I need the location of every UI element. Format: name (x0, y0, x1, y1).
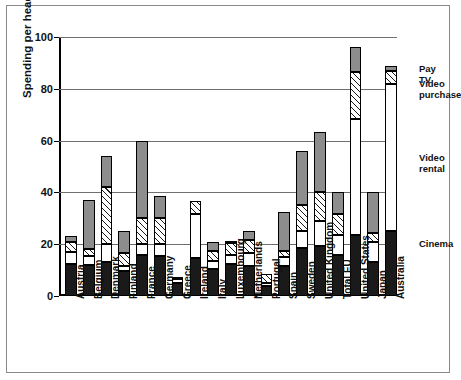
y-tick-mark-100 (54, 37, 59, 38)
segment-video-rental (350, 119, 362, 236)
x-label-australia: Australia (395, 256, 406, 299)
x-label-greece: Greece (182, 265, 193, 299)
segment-pay-tv (136, 141, 148, 219)
segment-pay-tv (118, 231, 130, 253)
x-label-germany: Germany (164, 256, 175, 299)
segment-video-purchase (83, 249, 95, 255)
x-label-netherlands: Netherlands (253, 241, 264, 299)
segment-video-rental (385, 84, 397, 232)
segment-pay-tv (350, 47, 362, 72)
y-tick-mark-40 (54, 192, 59, 193)
legend-label-cinema: Cinema (419, 238, 453, 249)
chart-frame: Spending per head ($) 020406080100 Austr… (6, 5, 450, 373)
segment-pay-tv (367, 192, 379, 232)
legend-video-rental-line1: Video (419, 152, 445, 163)
segment-video-rental (296, 231, 308, 248)
legend-video-purchase-line2: purchase (419, 89, 461, 100)
segment-video-purchase (101, 187, 113, 244)
segment-video-rental (154, 244, 166, 256)
x-label-portugal: Portugal (271, 258, 282, 299)
segment-video-purchase (207, 251, 219, 261)
y-tick-label-0: 0 (47, 290, 53, 302)
x-label-france: France (146, 266, 157, 299)
segment-pay-tv (385, 66, 397, 71)
segment-video-rental (190, 214, 202, 258)
y-axis-label: Spending per head ($) (21, 0, 33, 98)
y-tick-label-40: 40 (41, 186, 53, 198)
segment-video-purchase (190, 201, 202, 214)
segment-video-purchase (314, 192, 326, 220)
segment-video-rental (65, 252, 77, 264)
segment-video-purchase (65, 242, 77, 252)
x-label-sweden: Sweden (306, 261, 317, 299)
segment-pay-tv (83, 200, 95, 249)
segment-pay-tv (332, 192, 344, 214)
x-label-total-eu: Total EU (342, 259, 353, 299)
segment-video-purchase (154, 218, 166, 244)
segment-pay-tv (207, 242, 219, 251)
segment-pay-tv (278, 212, 290, 251)
gridline-80 (59, 89, 397, 90)
y-tick-label-100: 100 (35, 31, 53, 43)
y-tick-label-20: 20 (41, 238, 53, 250)
segment-video-purchase (385, 71, 397, 84)
y-tick-mark-80 (54, 89, 59, 90)
x-label-united-states: United States (360, 235, 371, 299)
segment-video-purchase (278, 251, 290, 257)
x-label-italy: Italy (217, 279, 228, 299)
x-label-finland: Finland (128, 263, 139, 299)
x-label-denmark: Denmark (110, 256, 121, 299)
x-label-ireland: Ireland (199, 266, 210, 299)
y-axis-line (59, 37, 61, 296)
gridline-100 (59, 37, 397, 38)
x-label-united-kingdom: United Kingdom (324, 222, 335, 299)
y-tick-mark-60 (54, 141, 59, 142)
segment-video-purchase (350, 72, 362, 119)
legend-video-purchase-line1: Video (419, 78, 445, 89)
legend-label-video-rental: Videorental (419, 152, 445, 174)
segment-pay-tv (296, 151, 308, 205)
plot-area: 020406080100 AustriaBelgiumDenmarkFinlan… (59, 37, 397, 296)
segment-video-purchase (296, 205, 308, 231)
x-label-spain: Spain (288, 272, 299, 299)
segment-video-purchase (136, 218, 148, 244)
segment-video-rental (136, 244, 148, 254)
y-tick-label-60: 60 (41, 135, 53, 147)
legend-label-video-purchase: Videopurchase (419, 78, 461, 100)
y-tick-mark-0 (54, 296, 59, 297)
y-tick-mark-20 (54, 244, 59, 245)
legend-video-rental-line2: rental (419, 163, 445, 174)
segment-pay-tv (101, 156, 113, 187)
y-tick-label-80: 80 (41, 83, 53, 95)
segment-pay-tv (154, 196, 166, 218)
x-label-belgium: Belgium (93, 260, 104, 299)
x-label-austria: Austria (75, 265, 86, 299)
segment-pay-tv (65, 236, 77, 241)
x-label-japan: Japan (377, 270, 388, 299)
x-label-luxembourg: Luxembourg (235, 238, 246, 299)
gridline-60 (59, 141, 397, 142)
segment-pay-tv (314, 132, 326, 193)
